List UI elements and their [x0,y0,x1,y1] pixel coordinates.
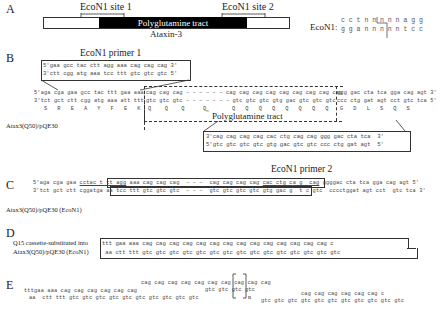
seq-e-right-top: cag cag cag cag cag cag c [301,291,384,297]
repeat-subscript-n: n [248,294,251,300]
repeat-bracket [0,0,440,316]
seq-e-right-bottom: gtc gtc gtc gtc gtc gtc gtc gtc gtc gtc … [261,298,404,304]
